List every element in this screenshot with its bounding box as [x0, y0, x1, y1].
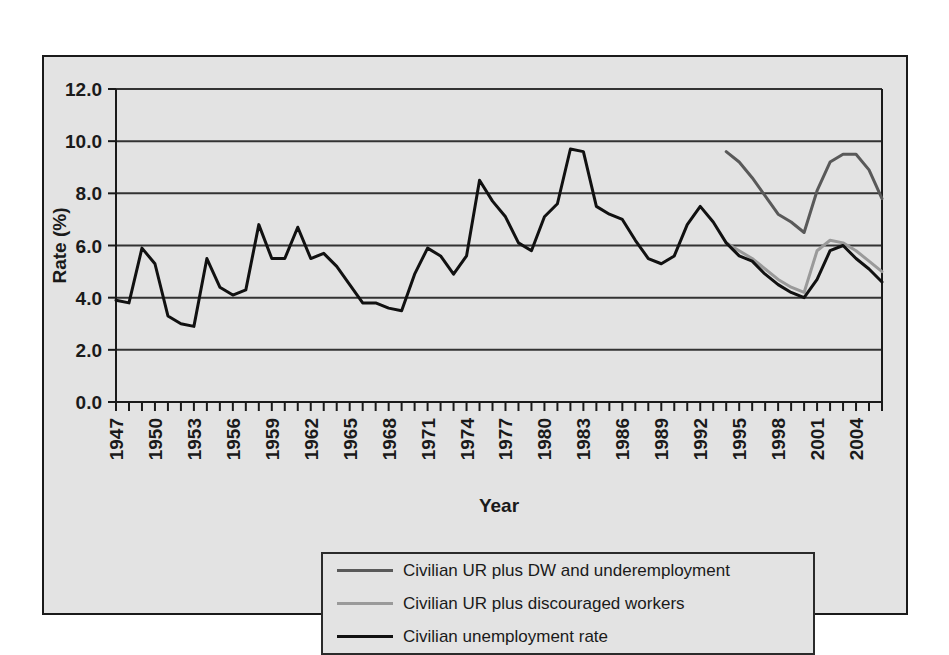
svg-text:1989: 1989: [651, 418, 672, 460]
svg-text:1950: 1950: [145, 418, 166, 460]
svg-text:10.0: 10.0: [65, 131, 102, 152]
svg-text:1980: 1980: [534, 418, 555, 460]
svg-text:1977: 1977: [495, 418, 516, 460]
svg-text:1974: 1974: [457, 418, 478, 461]
legend-label-series-3: Civilian unemployment rate: [403, 627, 608, 647]
svg-text:1953: 1953: [184, 418, 205, 460]
svg-text:1959: 1959: [262, 418, 283, 460]
svg-text:1965: 1965: [340, 418, 361, 461]
svg-text:1968: 1968: [379, 418, 400, 460]
svg-text:2001: 2001: [807, 418, 828, 461]
data-series-group: [116, 149, 882, 326]
svg-text:1983: 1983: [573, 418, 594, 460]
chart-outer-frame: 0.02.04.06.08.010.012.0 1947195019531956…: [42, 55, 908, 615]
svg-text:1986: 1986: [612, 418, 633, 460]
legend-item: Civilian unemployment rate: [323, 620, 813, 653]
legend-item: Civilian UR plus DW and underemployment: [323, 554, 813, 587]
legend-swatch-series-3: [337, 635, 393, 638]
svg-text:2.0: 2.0: [76, 340, 102, 361]
legend-label-series-2: Civilian UR plus discouraged workers: [403, 594, 685, 614]
y-axis-tick-labels: 0.02.04.06.08.010.012.0: [65, 79, 102, 413]
svg-text:0.0: 0.0: [76, 392, 102, 413]
svg-text:1998: 1998: [768, 418, 789, 460]
gridlines-group: [116, 89, 882, 402]
x-axis-tick-labels: 1947195019531956195919621965196819711974…: [106, 418, 867, 461]
svg-text:6.0: 6.0: [76, 236, 102, 257]
svg-text:4.0: 4.0: [76, 288, 102, 309]
legend-item: Civilian UR plus discouraged workers: [323, 587, 813, 620]
svg-text:2004: 2004: [846, 418, 867, 461]
axis-ticks-group: [108, 89, 882, 411]
svg-text:1992: 1992: [690, 418, 711, 460]
svg-text:1995: 1995: [729, 418, 750, 461]
svg-text:8.0: 8.0: [76, 183, 102, 204]
chart-legend: Civilian UR plus DW and underemployment …: [321, 552, 815, 655]
legend-label-series-1: Civilian UR plus DW and underemployment: [403, 561, 730, 581]
svg-text:1947: 1947: [106, 418, 127, 460]
y-axis-title: Rate (%): [49, 207, 70, 283]
svg-text:1956: 1956: [223, 418, 244, 460]
svg-text:1971: 1971: [418, 418, 439, 461]
x-axis-title: Year: [479, 495, 520, 516]
svg-text:1962: 1962: [301, 418, 322, 460]
legend-swatch-series-2: [337, 602, 393, 605]
chart-plot-svg: 0.02.04.06.08.010.012.0 1947195019531956…: [44, 57, 906, 613]
svg-text:12.0: 12.0: [65, 79, 102, 100]
legend-swatch-series-1: [337, 569, 393, 572]
